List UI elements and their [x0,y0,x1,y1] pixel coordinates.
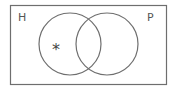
set-h-circle [39,13,101,75]
asterisk-marker: * [52,40,60,59]
universe-rectangle [11,6,167,85]
venn-diagram: H P * [0,0,173,90]
set-p-circle [76,13,138,75]
set-h-label: H [18,11,26,24]
set-p-label: P [147,11,154,24]
